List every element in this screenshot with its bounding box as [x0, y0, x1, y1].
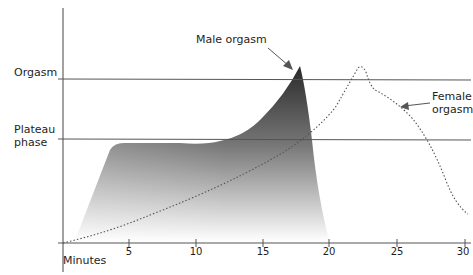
- x-tick-30: 30: [457, 246, 470, 257]
- x-tick-5: 5: [126, 246, 132, 257]
- female-orgasm-label-2: orgasm: [432, 103, 473, 116]
- x-tick-25: 25: [391, 246, 404, 257]
- x-tick-20: 20: [323, 246, 336, 257]
- y-label-plateau: Plateau: [14, 123, 55, 136]
- orgasm-line: [58, 79, 471, 80]
- male-orgasm-arrow: [268, 48, 293, 70]
- y-label-phase: phase: [14, 136, 47, 149]
- female-orgasm-label-1: Female: [432, 90, 472, 103]
- female-orgasm-arrow: [400, 102, 430, 110]
- x-axis-label: Minutes: [63, 254, 106, 267]
- male-orgasm-label: Male orgasm: [196, 33, 267, 46]
- plateau-line: [58, 139, 471, 140]
- x-tick-15: 15: [257, 246, 270, 257]
- x-tick-10: 10: [190, 246, 203, 257]
- y-label-orgasm: Orgasm: [14, 66, 57, 79]
